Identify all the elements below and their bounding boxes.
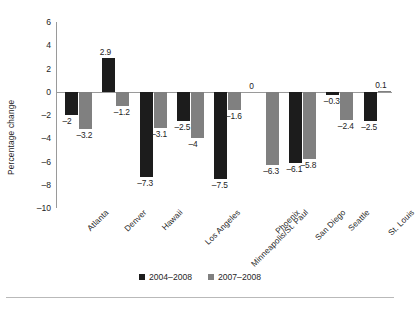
plot-area: 6420–2–4–6–8–10 –2–3.22.9–1.2–7.3–3.1–2.… <box>56 22 392 208</box>
y-tick-label: 4 <box>25 40 51 50</box>
bar-value-label: –0.3 <box>324 96 340 106</box>
bar-value-label: –7.5 <box>212 180 228 190</box>
y-axis-title: Percentage change <box>6 100 16 175</box>
bar-value-label: –2.5 <box>175 122 191 132</box>
bar-value-label: –2 <box>63 116 72 126</box>
legend-label: 2004–2008 <box>149 272 192 282</box>
bar <box>289 92 302 163</box>
bar <box>65 92 78 115</box>
y-tick-label: 6 <box>25 17 51 27</box>
bar-value-label: –7.3 <box>137 178 153 188</box>
bar-group: –7.3–3.1 <box>137 22 174 208</box>
bar <box>266 92 279 165</box>
bar-group: –2.50.1 <box>361 22 398 208</box>
y-tick-label: 2 <box>25 64 51 74</box>
legend-swatch-icon <box>139 274 145 280</box>
bar-value-label: –1.2 <box>114 107 130 117</box>
bar <box>228 92 241 111</box>
bar <box>340 92 353 120</box>
bar <box>154 92 167 128</box>
bar <box>303 92 316 159</box>
x-category-label: Denver <box>123 208 148 233</box>
bar-value-label: –2.4 <box>338 121 354 131</box>
bar <box>364 92 377 121</box>
bar <box>116 92 129 106</box>
y-tick-label: –4 <box>25 133 51 143</box>
x-category-label: Minneapolis/St. Paul <box>250 208 311 269</box>
x-axis-category-labels: AtlantaDenverHawaiiLos AngelesMinneapoli… <box>56 208 392 270</box>
bar <box>214 92 227 179</box>
bar <box>102 58 115 92</box>
bar-value-label: –2.5 <box>361 122 377 132</box>
bottom-divider <box>6 297 394 298</box>
y-tick-label: 0 <box>25 87 51 97</box>
bar-value-label: –3.1 <box>151 129 167 139</box>
y-tick-label: –10 <box>25 203 51 213</box>
bar-value-label: 2.9 <box>100 47 111 57</box>
bar-value-label: –3.2 <box>77 130 93 140</box>
y-tick-label: –6 <box>25 157 51 167</box>
y-tick-label: –8 <box>25 180 51 190</box>
bar-group: 2.9–1.2 <box>99 22 136 208</box>
bar-group: –6.1–5.8 <box>286 22 323 208</box>
legend-swatch-icon <box>208 274 214 280</box>
x-category-label: St. Louis <box>386 208 416 238</box>
bar <box>191 92 204 139</box>
legend-label: 2007–2008 <box>218 272 261 282</box>
bar-group: –2.5–4 <box>174 22 211 208</box>
bar-value-label: –5.8 <box>301 160 317 170</box>
x-category-label: Los Angeles <box>203 208 242 247</box>
chart-legend: 2004–20082007–2008 <box>0 272 400 282</box>
x-category-label: Seattle <box>347 208 372 233</box>
bar-group: 0–6.3 <box>249 22 286 208</box>
legend-item[interactable]: 2007–2008 <box>208 272 261 282</box>
bar-group: –7.5–1.6 <box>211 22 248 208</box>
bar <box>177 92 190 121</box>
bar <box>79 92 92 129</box>
bar-value-label: –6.3 <box>263 166 279 176</box>
bar-group: –0.3–2.4 <box>323 22 360 208</box>
bar-value-label: –4 <box>189 139 198 149</box>
bar-value-label: 0.1 <box>375 80 386 90</box>
bar-value-label: 0 <box>249 81 254 91</box>
x-category-label: Atlanta <box>86 208 111 233</box>
bar-group: –2–3.2 <box>62 22 99 208</box>
x-category-label: San Diego <box>313 208 347 242</box>
x-category-label: Hawaii <box>160 208 184 232</box>
bar <box>378 91 391 92</box>
bar-value-label: –1.6 <box>226 111 242 121</box>
legend-item[interactable]: 2004–2008 <box>139 272 192 282</box>
y-axis-line <box>56 22 57 208</box>
y-tick-label: –2 <box>25 110 51 120</box>
bar <box>326 92 339 95</box>
